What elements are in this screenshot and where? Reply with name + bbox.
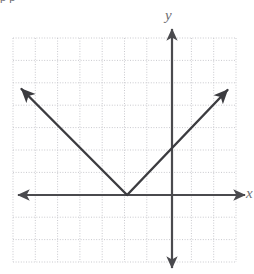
x-axis-label: x <box>246 186 253 201</box>
graph-figure: p p <box>0 0 254 274</box>
y-axis-label: y <box>165 8 172 23</box>
coordinate-plane <box>0 0 254 274</box>
